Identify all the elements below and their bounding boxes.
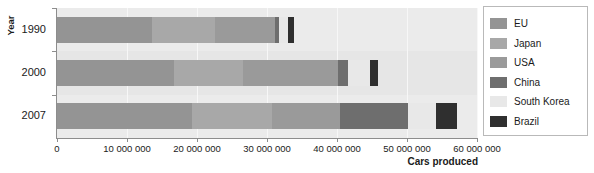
legend-swatch-icon — [490, 18, 507, 29]
bar-segment-eu — [57, 103, 192, 129]
bar-segment-south-korea — [348, 60, 370, 86]
bar-segment-brazil — [370, 60, 378, 86]
y-axis-tick — [52, 51, 57, 52]
legend-swatch-icon — [490, 38, 507, 49]
legend-swatch-icon — [490, 57, 507, 68]
y-tick-label: 1990 — [22, 23, 46, 35]
legend-swatch-icon — [490, 77, 507, 88]
legend-item[interactable]: USA — [490, 53, 587, 73]
y-axis-line — [56, 8, 57, 139]
x-axis-title: Cars produced — [407, 156, 478, 167]
bar-segment-china — [340, 103, 408, 129]
table-row — [57, 60, 477, 86]
x-axis-tick — [337, 138, 338, 142]
legend-label: Japan — [514, 38, 541, 49]
y-axis-tick-labels: 199020002007 — [0, 0, 52, 140]
legend: EUJapanUSAChinaSouth KoreaBrazil — [483, 6, 588, 136]
stacked-bar-chart: Year 199020002007 010 000 00020 000 0003… — [0, 0, 594, 173]
y-axis-tick — [52, 8, 57, 9]
table-row — [57, 103, 477, 129]
x-axis-tick — [197, 138, 198, 142]
bar-segment-brazil — [436, 103, 457, 129]
x-tick-label: 50 000 000 — [383, 143, 431, 154]
x-tick-label: 20 000 000 — [173, 143, 221, 154]
legend-item[interactable]: EU — [490, 14, 587, 34]
y-tick-label: 2000 — [22, 66, 46, 78]
x-tick-label: 60 000 000 — [453, 143, 501, 154]
bar-segment-usa — [243, 60, 338, 86]
gridline — [477, 8, 478, 138]
bar-segment-brazil — [288, 17, 294, 43]
legend-item[interactable]: Japan — [490, 34, 587, 54]
legend-label: South Korea — [514, 96, 570, 107]
bar-segment-south-korea — [279, 17, 288, 43]
legend-item[interactable]: China — [490, 73, 587, 93]
legend-swatch-icon — [490, 116, 507, 127]
bar-segment-usa — [215, 17, 275, 43]
bar-segment-south-korea — [408, 103, 437, 129]
x-axis-tick — [407, 138, 408, 142]
y-tick-label: 2007 — [22, 109, 46, 121]
bar-segment-eu — [57, 17, 152, 43]
legend-label: USA — [514, 57, 535, 68]
x-axis-tick — [477, 138, 478, 142]
bar-segment-japan — [192, 103, 272, 129]
legend-swatch-icon — [490, 96, 507, 107]
x-tick-label: 30 000 000 — [243, 143, 291, 154]
plot-area — [57, 8, 477, 138]
bar-segment-japan — [152, 17, 215, 43]
bar-segment-eu — [57, 60, 174, 86]
x-axis-tick — [57, 138, 58, 142]
legend-label: EU — [514, 18, 528, 29]
table-row — [57, 17, 477, 43]
x-tick-label: 40 000 000 — [313, 143, 361, 154]
x-tick-label: 0 — [54, 143, 59, 154]
bar-segment-china — [338, 60, 348, 86]
x-tick-label: 10 000 000 — [103, 143, 151, 154]
bar-segment-japan — [174, 60, 243, 86]
bar-segment-usa — [272, 103, 340, 129]
y-axis-tick — [52, 95, 57, 96]
legend-label: Brazil — [514, 116, 539, 127]
x-axis-tick — [267, 138, 268, 142]
x-axis-tick — [127, 138, 128, 142]
legend-label: China — [514, 77, 540, 88]
legend-item[interactable]: Brazil — [490, 112, 587, 132]
legend-item[interactable]: South Korea — [490, 92, 587, 112]
